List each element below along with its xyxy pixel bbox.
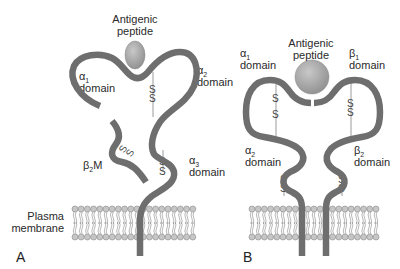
plasma-membrane-label-a-2: membrane [11, 222, 64, 234]
peptide-label-b: Antigenic [288, 37, 334, 49]
panel-label-b: B [243, 249, 252, 265]
peptide-label-a-2: peptide [117, 25, 153, 37]
disulfide-a-alpha3-2: S [159, 166, 166, 177]
antigenic-peptide-a [125, 41, 145, 69]
mhc-molecules-diagram: S S S S S S Antigenic peptide α1 domain … [0, 0, 400, 269]
disulfide-b-alpha1-2: S [272, 109, 279, 120]
plasma-membrane-label-a: Plasma [27, 210, 65, 222]
b2m-label-a: β2M [83, 159, 102, 173]
disulfide-b-alpha1-1: S [272, 93, 279, 104]
beta1-domain-word-b: domain [349, 59, 385, 71]
alpha-chain-b [246, 80, 311, 256]
antigenic-peptide-b [295, 60, 329, 94]
peptide-label-b-2: peptide [293, 49, 329, 61]
peptide-label-a: Antigenic [112, 13, 158, 25]
beta2-domain-word-b: domain [354, 156, 390, 168]
disulfide-a-b2m-2: S [123, 147, 136, 159]
plasma-membrane-b [249, 206, 379, 240]
panel-label-a: A [16, 249, 26, 265]
panel-a: S S S S S S Antigenic peptide α1 domain … [11, 13, 233, 265]
panel-b: S S S S S S S S Antigenic peptide α1 dom… [240, 37, 390, 265]
disulfide-b-beta1-2: S [347, 107, 354, 118]
alpha2-domain-word-b: domain [245, 156, 281, 168]
alpha3-domain-word-a: domain [189, 166, 225, 178]
alpha1-domain-word-b: domain [240, 59, 276, 71]
alpha2-domain-word-a: domain [197, 76, 233, 88]
disulfide-a-alpha2-2: S [149, 93, 156, 104]
plasma-membrane-a [72, 206, 196, 240]
